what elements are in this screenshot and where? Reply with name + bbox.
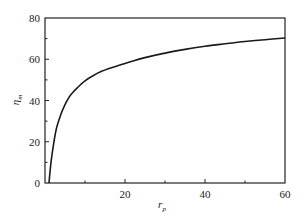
- x-tick-label: 20: [120, 188, 132, 200]
- x-axis-label: rp: [158, 198, 166, 213]
- chart: 204060 020406080 rp ηm: [0, 0, 303, 219]
- y-tick-label: 0: [35, 177, 41, 189]
- x-tick-labels: 204060: [120, 188, 292, 200]
- plot-frame: [45, 18, 285, 183]
- x-tick-label: 40: [200, 188, 212, 200]
- axis-ticks: [45, 39, 245, 183]
- y-tick-label: 40: [29, 95, 41, 107]
- plot-border: [45, 18, 285, 183]
- x-tick-label: 60: [280, 188, 292, 200]
- y-axis-label: ηm: [9, 95, 24, 106]
- y-tick-labels: 020406080: [29, 12, 41, 189]
- data-curve: [49, 38, 285, 183]
- y-tick-label: 80: [29, 12, 41, 24]
- y-tick-label: 20: [29, 136, 41, 148]
- y-tick-label: 60: [29, 53, 41, 65]
